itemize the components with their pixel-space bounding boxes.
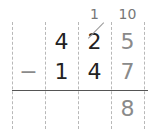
- minuend-ones: 5: [111, 29, 144, 55]
- carry-tens: 1: [78, 6, 111, 22]
- subtrahend-tens: 4: [78, 59, 111, 85]
- subtrahend-ones: 7: [111, 59, 144, 85]
- carry-ones: 10: [111, 6, 144, 22]
- subtrahend-hundreds: 1: [45, 59, 78, 85]
- answer-line: [12, 90, 148, 91]
- column-divider: [144, 22, 145, 129]
- result-ones: 8: [111, 96, 144, 122]
- minuend-hundreds: 4: [45, 29, 78, 55]
- minuend-tens: 2: [78, 29, 111, 55]
- minus-sign: −: [12, 59, 45, 85]
